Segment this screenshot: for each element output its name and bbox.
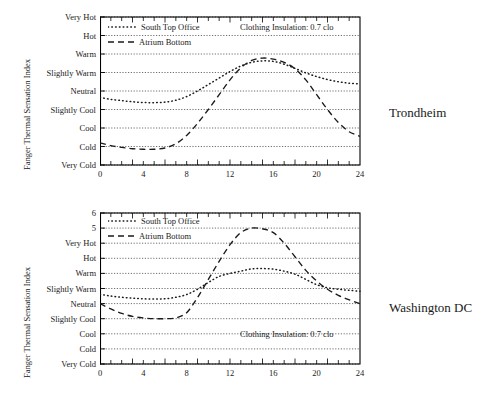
site-label-trondheim: Trondheim xyxy=(389,105,446,121)
x-tick-label: 12 xyxy=(226,170,235,179)
clothing-insulation-annotation: Clothing Insulation: 0.7 clo xyxy=(240,23,334,32)
x-tick-label: 8 xyxy=(184,170,188,179)
legend-label-atrium-bottom: Atrium Bottom xyxy=(139,232,191,241)
x-tick-label: 24 xyxy=(356,369,365,378)
legend-label-south-top-office: South Top Office xyxy=(141,217,200,226)
y-tick-label: Slightly Warm xyxy=(47,284,96,293)
y-tick-label: Very Hot xyxy=(65,239,96,248)
y-tick-label: Neutral xyxy=(71,299,97,308)
x-tick-label: 20 xyxy=(312,170,321,179)
series-line-south-top-office xyxy=(100,61,360,103)
x-tick-label: 8 xyxy=(184,369,188,378)
y-tick-label: Hot xyxy=(83,254,96,263)
clothing-insulation-annotation: Clothing Insulation: 0.7 clo xyxy=(240,330,334,339)
y-tick-label: Hot xyxy=(83,31,96,40)
y-tick-labels-top: Very Hot Hot Warm Slightly Warm Neutral … xyxy=(30,0,96,200)
y-tick-label: Warm xyxy=(75,50,96,59)
y-tick-label: 6 xyxy=(92,209,96,218)
y-tick-label: Very Hot xyxy=(65,13,96,22)
y-tick-label: Slightly Cool xyxy=(50,105,96,114)
y-tick-label: Cool xyxy=(79,330,96,339)
x-tick-label: 12 xyxy=(226,369,235,378)
site-label-washington-dc: Washington DC xyxy=(389,300,472,316)
y-tick-label: Very Cold xyxy=(61,161,96,170)
y-tick-label: Slightly Cool xyxy=(50,314,96,323)
chart-panel-washington-dc: Fanger Thermal Sensation Index 6 5 Very … xyxy=(0,200,485,405)
chart-panel-trondheim: Fanger Thermal Sensation Index Very Hot … xyxy=(0,0,485,200)
legend-label-atrium-bottom: Atrium Bottom xyxy=(139,38,191,47)
y-tick-label: Neutral xyxy=(71,87,97,96)
x-tick-label: 16 xyxy=(269,170,278,179)
x-tick-label: 4 xyxy=(141,170,145,179)
legend-label-south-top-office: South Top Office xyxy=(141,23,200,32)
x-tick-label: 20 xyxy=(312,369,321,378)
y-tick-label: Cold xyxy=(79,142,96,151)
y-tick-label: Very Cold xyxy=(61,360,96,369)
y-tick-label: Warm xyxy=(75,269,96,278)
x-tick-label: 0 xyxy=(98,369,102,378)
y-tick-label: 5 xyxy=(92,224,96,233)
y-tick-labels-bottom: 6 5 Very Hot Hot Warm Slightly Warm Neut… xyxy=(30,200,96,405)
y-tick-label: Cold xyxy=(79,345,96,354)
figure-thermal-sensation: Fanger Thermal Sensation Index Very Hot … xyxy=(0,0,485,405)
y-tick-label: Slightly Warm xyxy=(47,68,96,77)
x-tick-label: 0 xyxy=(98,170,102,179)
x-tick-label: 4 xyxy=(141,369,145,378)
x-tick-label: 16 xyxy=(269,369,278,378)
x-tick-label: 24 xyxy=(356,170,365,179)
y-tick-label: Cool xyxy=(79,124,96,133)
